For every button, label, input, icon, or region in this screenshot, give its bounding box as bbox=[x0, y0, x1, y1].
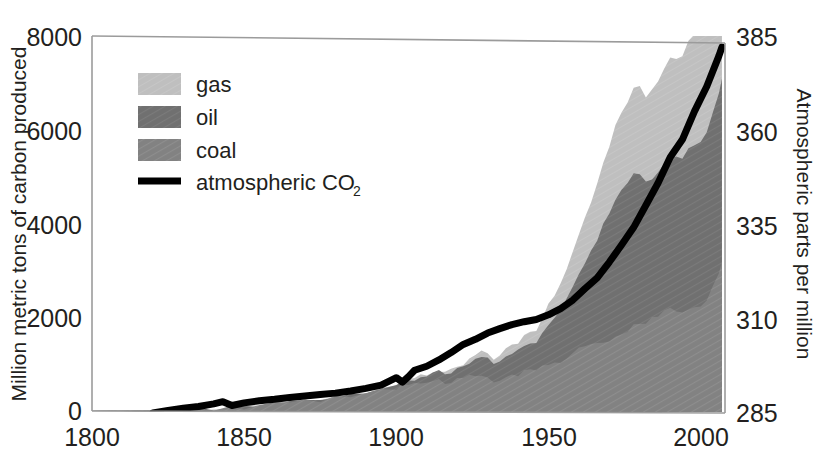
x-axis-tick-1800: 1800 bbox=[64, 423, 120, 451]
y2-axis-title: Atmospheric parts per million bbox=[793, 89, 816, 360]
y2-axis-tick-285: 285 bbox=[736, 399, 778, 427]
legend-label-oil: oil bbox=[196, 105, 218, 130]
x-axis-tick-1850: 1850 bbox=[216, 423, 272, 451]
y-axis-title: Million metric tons of carbon produced bbox=[7, 47, 30, 402]
y-axis-tick-2000: 2000 bbox=[26, 304, 82, 332]
legend-swatch-gas bbox=[138, 73, 181, 95]
x-axis-tick-2000: 2000 bbox=[673, 423, 729, 451]
y-axis-tick-6000: 6000 bbox=[26, 117, 82, 145]
y2-axis-tick-360: 360 bbox=[736, 118, 778, 146]
y2-axis-tick-385: 385 bbox=[736, 23, 778, 51]
y-axis-tick-8000: 8000 bbox=[26, 23, 82, 51]
y-axis-tick-4000: 4000 bbox=[26, 211, 82, 239]
x-axis-tick-1950: 1950 bbox=[521, 423, 577, 451]
legend-swatch-coal bbox=[138, 139, 181, 161]
legend-label-atmospheric-co2: atmospheric CO bbox=[196, 170, 355, 195]
legend-label-gas: gas bbox=[196, 72, 231, 97]
y2-axis-tick-335: 335 bbox=[736, 212, 778, 240]
fossil-fuel-co2-chart: 8000 6000 4000 2000 0 385 360 335 310 28… bbox=[0, 0, 817, 459]
legend-swatch-oil bbox=[138, 106, 181, 128]
y2-axis-tick-310: 310 bbox=[736, 306, 778, 334]
legend-label-atmospheric-co2-subscript: 2 bbox=[353, 183, 361, 199]
chart-container: 8000 6000 4000 2000 0 385 360 335 310 28… bbox=[0, 0, 817, 459]
x-axis-tick-1900: 1900 bbox=[368, 423, 424, 451]
legend-label-coal: coal bbox=[196, 138, 236, 163]
y-axis-tick-0: 0 bbox=[68, 397, 82, 425]
